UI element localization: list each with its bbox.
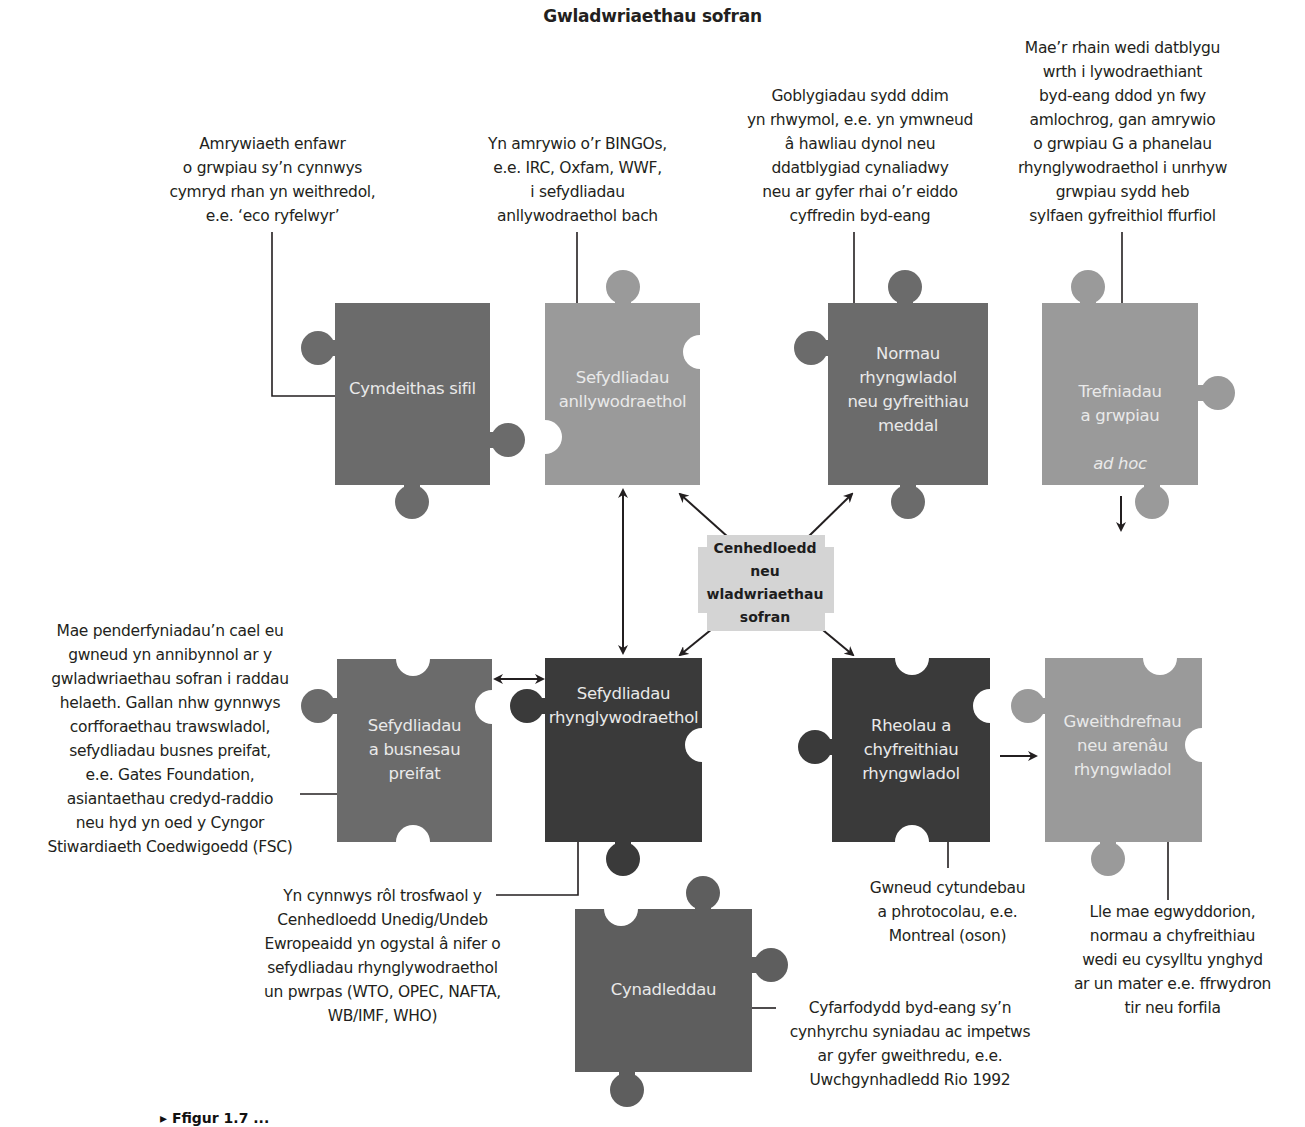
figure-caption: ▸ Ffigur 1.7 ... bbox=[160, 1110, 269, 1126]
puzzle-piece-cymdeithas-sifil bbox=[301, 303, 525, 519]
piece-label-cymdeithas-sifil: Cymdeithas sifil bbox=[335, 377, 490, 401]
note-busnesau: Mae penderfyniadau’n cael eu gwneud yn a… bbox=[10, 619, 330, 859]
note-gweithdrefnau: Lle mae egwyddorion, normau a chyfreithi… bbox=[1050, 900, 1295, 1020]
note-rhynglywodraethol: Yn cynnwys rôl trosfwaol y Cenhedloedd U… bbox=[225, 884, 540, 1028]
piece-label-trefniadau-main: Trefniadau a grwpiau bbox=[1078, 382, 1161, 425]
note-cymdeithas-sifil: Amrywiaeth enfawr o grwpiau sy’n cynnwys… bbox=[140, 132, 405, 228]
piece-label-gweithdrefnau: Gweithdrefnau neu arenâu rhyngwladol bbox=[1040, 710, 1205, 782]
piece-label-trefniadau-italic: ad hoc bbox=[1093, 454, 1147, 473]
piece-label-rheolau: Rheolau a chyfreithiau rhyngwladol bbox=[832, 714, 990, 786]
note-rheolau: Gwneud cytundebau a phrotocolau, e.e. Mo… bbox=[840, 876, 1055, 948]
piece-label-normau-rhyngwladol: Normau rhyngwladol neu gyfreithiau medda… bbox=[825, 342, 991, 438]
note-normau: Goblygiadau sydd ddim yn rhwymol, e.e. y… bbox=[715, 84, 1005, 228]
center-node-label: Cenhedloedd neu wladwriaethau sofran bbox=[690, 537, 840, 629]
note-trefniadau: Mae’r rhain wedi datblygu wrth i lywodra… bbox=[990, 36, 1255, 228]
note-anllywodraethol: Yn amrywio o’r BINGOs, e.e. IRC, Oxfam, … bbox=[450, 132, 705, 228]
note-cynadleddau: Cyfarfodydd byd-eang sy’n cynhyrchu syni… bbox=[765, 996, 1055, 1092]
piece-label-trefniadau: Trefniadau a grwpiau ad hoc bbox=[1042, 356, 1198, 476]
piece-label-sefydliadau-anllywodraethol: Sefydliadau anllywodraethol bbox=[540, 366, 705, 414]
diagram-title: Gwladwriaethau sofran bbox=[0, 6, 1305, 26]
piece-label-busnesau-preifat: Sefydliadau a busnesau preifat bbox=[337, 714, 492, 786]
piece-label-cynadleddau: Cynadleddau bbox=[575, 978, 752, 1002]
piece-label-rhynglywodraethol: Sefydliadau rhynglywodraethol bbox=[540, 682, 707, 730]
